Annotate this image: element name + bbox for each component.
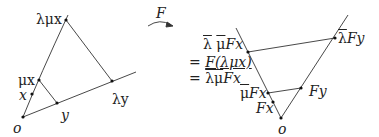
arrow-head-icon bbox=[166, 22, 173, 27]
point-o-left bbox=[21, 115, 24, 118]
label-Fy: Fy bbox=[309, 84, 327, 98]
equals-sign: = bbox=[189, 54, 205, 70]
point-y bbox=[55, 101, 58, 104]
label-o-left: o bbox=[13, 121, 21, 135]
label-x: x bbox=[19, 88, 27, 102]
point-lambda-mu-x bbox=[64, 18, 67, 21]
point-mu-x bbox=[37, 78, 40, 81]
left-points bbox=[21, 18, 113, 118]
equation-line-2: = F(λμx) bbox=[189, 55, 252, 69]
Fx-text: Fx bbox=[225, 36, 243, 52]
label-map-F: F bbox=[156, 6, 166, 20]
map-arrow-F bbox=[148, 22, 173, 27]
equation-line-3: = λμFx bbox=[189, 71, 241, 85]
label-lambdabar-Fy: λFy bbox=[338, 31, 365, 45]
label-lambda-mu-x: λμx bbox=[36, 12, 62, 26]
Fx-text: Fx bbox=[249, 85, 267, 101]
lambda-mu-bar: λμ bbox=[205, 70, 223, 86]
point-Fy bbox=[299, 86, 302, 89]
point-o-right bbox=[279, 116, 282, 119]
label-lambda-y: λy bbox=[112, 92, 129, 106]
line-lambdabar-mubar-Fx-to-lambdabar-Fy bbox=[248, 38, 335, 52]
line-mu-x-to-y bbox=[39, 80, 57, 103]
label-Fx: Fx bbox=[256, 101, 274, 115]
lambda-bar: λ bbox=[203, 36, 212, 52]
right-figure bbox=[236, 15, 348, 118]
label-mubar-Fx: μFx bbox=[240, 86, 267, 100]
label-y: y bbox=[61, 108, 69, 122]
line-mubar-Fx-to-Fy bbox=[268, 88, 301, 93]
lambda-bar: λ bbox=[338, 30, 347, 46]
mu-bar: μ bbox=[240, 85, 249, 101]
point-lambda-y bbox=[110, 79, 113, 82]
equation-line-1: λ μFx bbox=[203, 37, 243, 51]
line-lambda-mu-x-to-lambda-y bbox=[66, 20, 112, 81]
F-of-lambda-mu-x: F(λμx) bbox=[205, 54, 252, 70]
point-x bbox=[30, 92, 33, 95]
point-lambdabar-Fy bbox=[333, 36, 336, 39]
label-o-right: o bbox=[278, 122, 286, 136]
label-mu-x: μx bbox=[18, 73, 35, 87]
Fy-text: Fy bbox=[347, 30, 365, 46]
Fx-text: Fx bbox=[223, 70, 241, 86]
equals-sign: = bbox=[189, 70, 205, 86]
